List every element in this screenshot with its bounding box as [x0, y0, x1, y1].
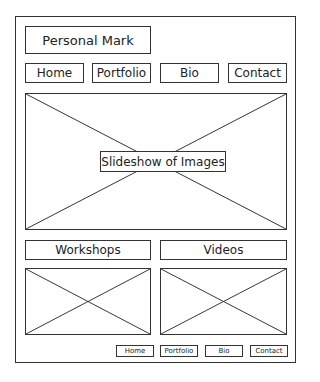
videos-heading[interactable]: Videos — [160, 240, 287, 260]
footer-portfolio-link[interactable]: Portfolio — [160, 345, 198, 357]
personal-mark-label: Personal Mark — [42, 33, 133, 48]
nav-portfolio-label: Portfolio — [97, 66, 146, 80]
nav-home-button[interactable]: Home — [25, 63, 84, 83]
footer-contact-link[interactable]: Contact — [250, 345, 288, 357]
image-placeholder-icon — [26, 269, 150, 334]
videos-label: Videos — [204, 243, 244, 257]
image-placeholder-icon — [161, 269, 286, 334]
footer-home-link[interactable]: Home — [116, 345, 154, 357]
workshops-image-placeholder[interactable] — [25, 268, 151, 335]
videos-image-placeholder[interactable] — [160, 268, 287, 335]
nav-bio-label: Bio — [180, 66, 199, 80]
nav-portfolio-button[interactable]: Portfolio — [92, 63, 151, 83]
nav-contact-button[interactable]: Contact — [228, 63, 287, 83]
workshops-label: Workshops — [55, 243, 120, 257]
hero-slideshow-label: Slideshow of Images — [100, 151, 226, 172]
nav-bio-button[interactable]: Bio — [160, 63, 219, 83]
personal-mark-logo[interactable]: Personal Mark — [25, 26, 151, 54]
nav-contact-label: Contact — [234, 66, 281, 80]
footer-bio-link[interactable]: Bio — [205, 345, 243, 357]
nav-home-label: Home — [37, 66, 72, 80]
workshops-heading[interactable]: Workshops — [25, 240, 151, 260]
